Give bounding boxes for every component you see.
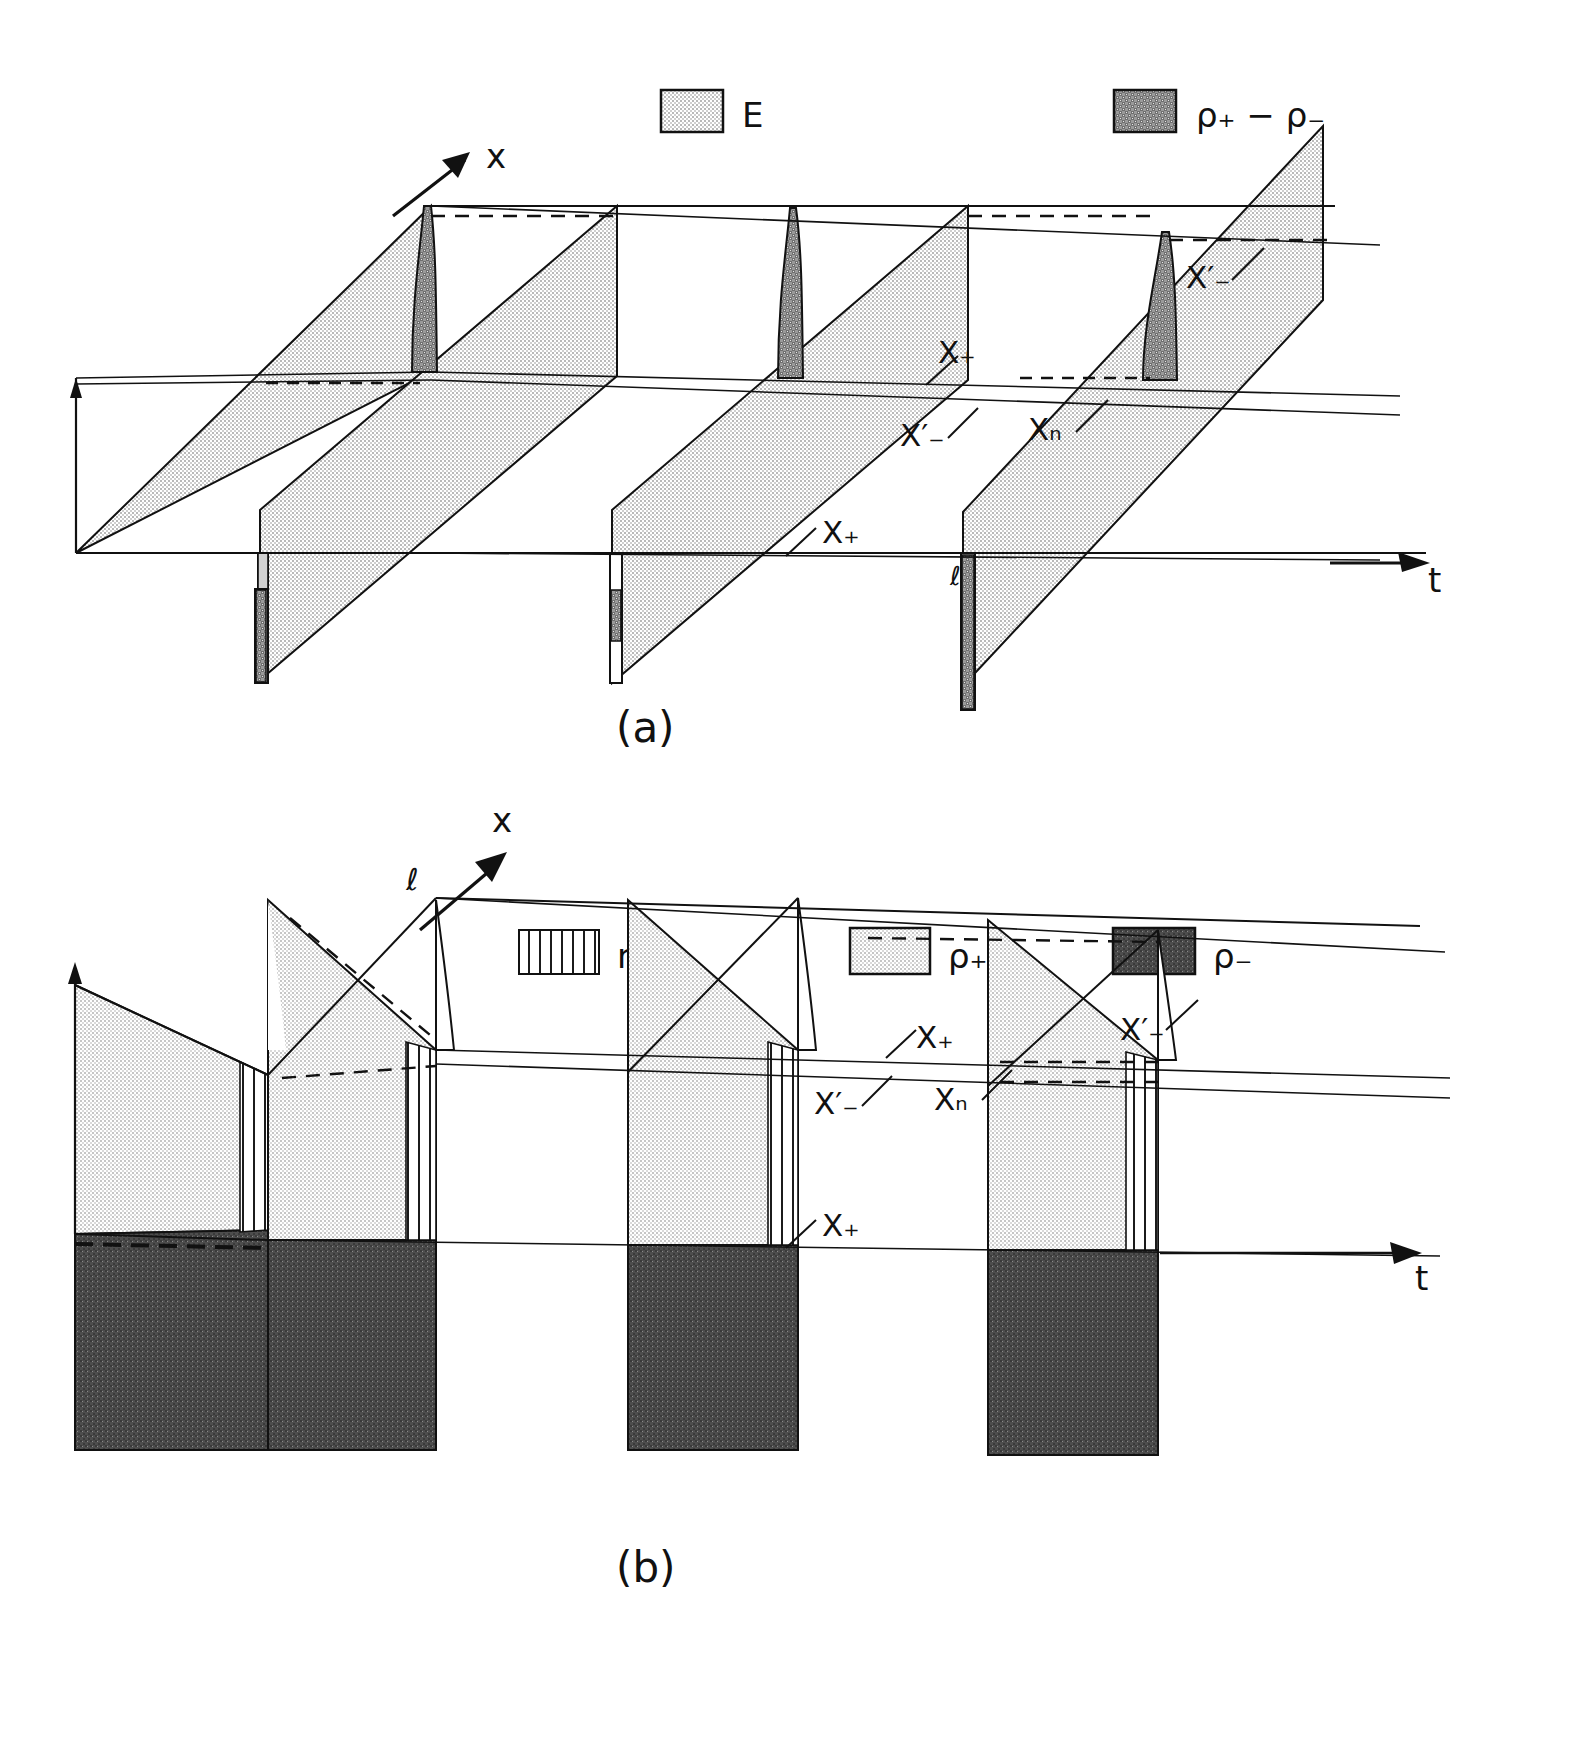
t-axis-label-b: t <box>1415 1258 1428 1298</box>
n-band-2 <box>406 1042 436 1240</box>
rho-fin-3 <box>611 590 621 641</box>
legend-swatch-n <box>519 930 599 974</box>
label-a-x-minus-prime-upper: X′₋ <box>1186 259 1231 295</box>
legend-b-n: n <box>519 930 639 976</box>
label-b-x-minus-prime-lower: X′₋ <box>814 1085 859 1121</box>
label-b-x-minus-prime-upper: X′₋ <box>1120 1011 1165 1047</box>
legend-a-rho-diff: ρ₊ − ρ₋ <box>1114 90 1325 135</box>
x-axis-label-b: x <box>492 800 512 840</box>
legend-label-rho-diff: ρ₊ − ρ₋ <box>1196 95 1325 135</box>
label-a-x-plus-mid: X₊ <box>938 334 976 370</box>
legend-label-E: E <box>742 95 763 135</box>
legend-b-rho-plus: ρ₊ <box>850 928 988 976</box>
label-b-ell: ℓ <box>405 862 418 897</box>
label-a-x-minus-prime-lower: X′₋ <box>900 417 945 453</box>
label-a-ell: ℓ <box>949 561 961 591</box>
legend-swatch-rho-diff <box>1114 90 1176 132</box>
t-axis-label-a: t <box>1428 560 1441 600</box>
legend-a-E: E <box>661 90 763 135</box>
diagram-canvas: E ρ₊ − ρ₋ <box>0 0 1581 1751</box>
label-b-x-plus-mid: X₊ <box>916 1019 954 1055</box>
figure-root: E ρ₊ − ρ₋ <box>0 0 1581 1751</box>
rho-minus-1 <box>75 1230 268 1450</box>
x-axis-label-a: x <box>486 136 506 176</box>
label-b-x-n: Xₙ <box>934 1081 968 1117</box>
label-a-x-plus-lower: X₊ <box>822 514 860 550</box>
label-a-x-n: Xₙ <box>1028 411 1062 447</box>
label-b-x-plus-lower: X₊ <box>822 1207 860 1243</box>
rho-fin-2 <box>256 590 266 682</box>
n-band-3 <box>768 1042 798 1245</box>
rho-minus-3 <box>628 1245 798 1450</box>
rho-minus-2 <box>268 1240 436 1450</box>
n-band-1 <box>240 1062 268 1232</box>
panel-b-caption: (b) <box>616 1543 675 1592</box>
rho-fin-4 <box>962 555 974 709</box>
panel-a-caption: (a) <box>616 703 675 752</box>
legend-label-rho-plus: ρ₊ <box>948 936 988 976</box>
legend-swatch-rho-plus <box>850 928 930 974</box>
rho-minus-4 <box>988 1250 1158 1455</box>
legend-swatch-E <box>661 90 723 132</box>
